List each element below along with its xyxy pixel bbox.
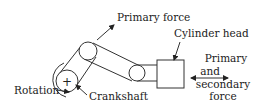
primary-force-label: Primary force — [117, 11, 190, 23]
cylinder-head-pointer-icon — [174, 42, 180, 60]
crankshaft-label: Crankshaft — [89, 90, 149, 102]
primary-force-arrow-icon — [97, 25, 114, 40]
crankshaft-diagram: + Primary force Cylinder head Primary an… — [0, 0, 258, 110]
rotation-label: Rotation — [14, 84, 60, 96]
crankshaft-pointer-icon — [76, 85, 87, 95]
force-label-line-3: secondary — [196, 78, 251, 90]
cylinder-head-label: Cylinder head — [174, 27, 249, 39]
crankshaft-center-symbol: + — [62, 75, 72, 89]
wrist-pin-circle — [129, 65, 145, 81]
force-label-line-1: Primary — [205, 52, 248, 64]
force-label-line-2: and — [200, 65, 220, 77]
force-label-line-4: force — [209, 90, 236, 102]
cylinder-head-box — [157, 60, 184, 88]
crank-pin-circle — [79, 42, 97, 60]
